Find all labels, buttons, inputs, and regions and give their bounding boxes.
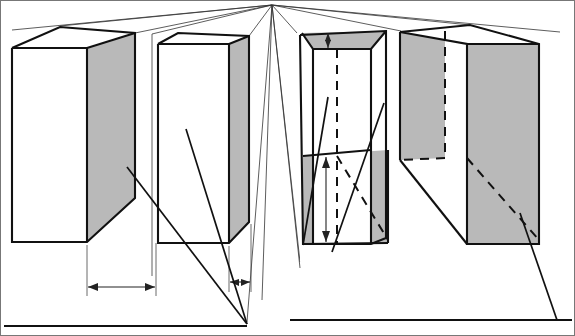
block-4-far-face-gray	[400, 31, 445, 160]
technical-diagram-canvas	[0, 0, 575, 336]
block-3	[300, 31, 388, 262]
block-2-side-face	[229, 36, 249, 243]
perspective-block-drawing	[0, 0, 575, 336]
block-3-inner-white-face	[313, 48, 371, 244]
block-2-front-face	[158, 44, 229, 243]
block-1	[12, 27, 135, 242]
block-4-front-face-gray	[467, 44, 539, 244]
block-1-front-face	[12, 48, 87, 242]
block-3-bottom-edge	[303, 243, 388, 244]
